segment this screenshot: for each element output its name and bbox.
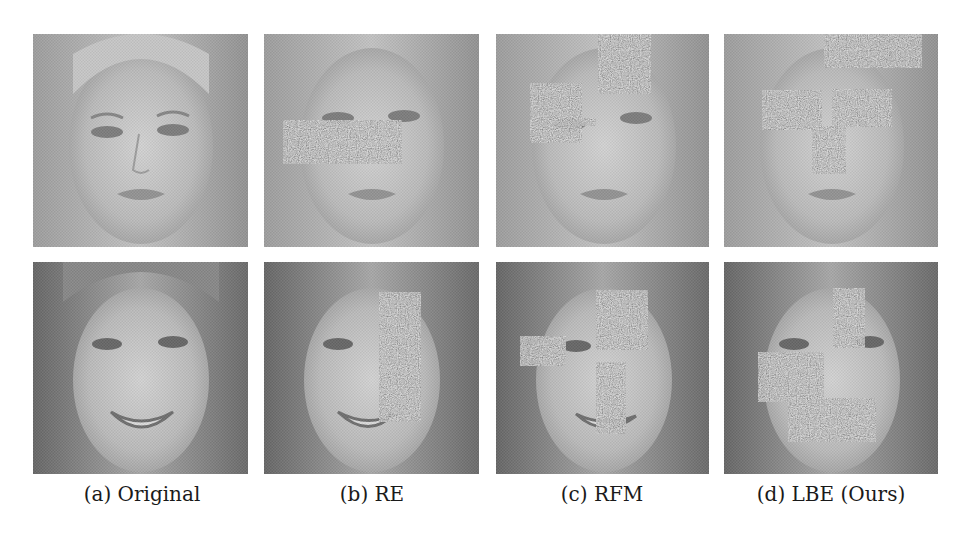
mask-block [520,336,566,366]
face-image [724,34,938,247]
face-image [496,262,709,474]
landmark-block-mouth [788,398,876,442]
panel-row1-original [33,34,248,247]
landmark-block-right-eye [832,89,892,127]
panel-row1-lbe [724,34,938,247]
landmark-block-left-eye [762,90,822,130]
face-image [33,34,248,247]
mask-block [596,362,626,434]
caption-original: (a) Original [84,482,201,506]
mask-block [598,34,651,94]
caption-lbe-ours: (d) LBE (Ours) [757,482,905,506]
panel-row2-lbe [724,262,938,474]
face-image [264,34,479,247]
landmark-block-forehead [824,34,922,68]
face-image [724,262,938,474]
face-image [264,262,479,474]
landmark-block-right-eye [833,288,865,348]
mask-block [530,83,582,143]
random-erasing-block [379,292,421,422]
face-image [33,262,248,474]
panel-row1-re [264,34,479,247]
panel-row1-rfm [496,34,709,247]
caption-rfm: (c) RFM [561,482,644,506]
mask-block [582,118,596,126]
panel-row2-original [33,262,248,474]
random-erasing-block [283,120,402,164]
caption-re: (b) RE [340,482,404,506]
panel-row2-re [264,262,479,474]
face-image [496,34,709,247]
figure-face-occlusion-comparison: (a) Original (b) RE (c) RFM (d) LBE (Our… [0,0,965,540]
panel-row2-rfm [496,262,709,474]
mask-block [596,290,648,350]
